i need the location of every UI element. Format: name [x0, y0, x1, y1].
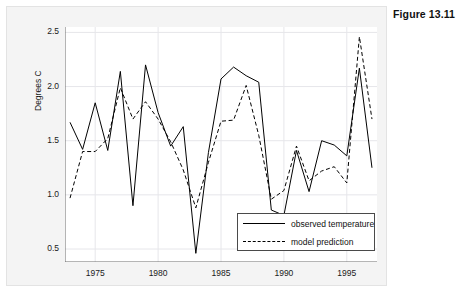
legend-label-model: model prediction [291, 237, 353, 247]
figure-caption: Figure 13.11 [393, 8, 455, 20]
legend-line-dashed-icon [243, 237, 285, 247]
y-axis-title: Degrees C [33, 97, 43, 111]
y-tick-label: 0.5 [35, 243, 59, 253]
y-tick-label: 1.5 [35, 135, 59, 145]
x-tick-label: 1975 [78, 268, 112, 278]
x-tick-label: 1980 [141, 268, 175, 278]
legend-line-solid-icon [243, 219, 285, 229]
x-tick-label: 1990 [267, 268, 301, 278]
plot-wrapper: observed temperature model prediction [65, 27, 377, 262]
legend: observed temperature model prediction [237, 213, 375, 251]
y-tick-label: 2.5 [35, 26, 59, 36]
y-tick-label: 1.0 [35, 189, 59, 199]
figure-container: Degrees C 0.51.01.52.02.5 19751980198519… [0, 0, 463, 293]
y-tick-label: 2.0 [35, 81, 59, 91]
legend-entry-observed-temperature: observed temperature [238, 214, 374, 233]
legend-entry-model-prediction: model prediction [238, 232, 374, 251]
x-tick-label: 1995 [330, 268, 364, 278]
x-tick-label: 1985 [204, 268, 238, 278]
legend-label-observed: observed temperature [291, 219, 374, 229]
graph-panel: Degrees C 0.51.01.52.02.5 19751980198519… [6, 6, 387, 286]
